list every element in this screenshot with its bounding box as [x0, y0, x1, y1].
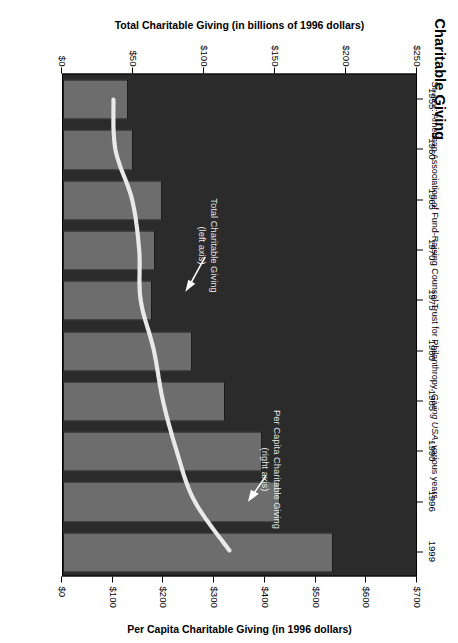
- right-tick: [213, 576, 214, 582]
- right-tick: [416, 576, 417, 582]
- category-tick: [417, 400, 423, 401]
- left-tick-label: $50: [128, 30, 139, 66]
- line-series: [63, 74, 416, 575]
- left-tick: [416, 67, 417, 73]
- category-tick: [417, 450, 423, 451]
- category-tick: [417, 551, 423, 552]
- left-tick-label: $250: [412, 30, 423, 66]
- left-tick: [61, 67, 62, 73]
- left-tick: [203, 67, 204, 73]
- category-tick: [417, 98, 423, 99]
- right-tick-label: $300: [209, 586, 220, 607]
- left-tick: [132, 67, 133, 73]
- right-tick-label: $0: [57, 586, 68, 597]
- right-tick-label: $600: [361, 586, 372, 607]
- left-tick-label: $100: [199, 30, 210, 66]
- arrow-head-percap: [248, 489, 259, 501]
- category-tick: [417, 299, 423, 300]
- right-tick-label: $700: [412, 586, 423, 607]
- arrow-head-total: [185, 279, 195, 291]
- per-capita-line: [113, 99, 229, 550]
- category-tick: [417, 350, 423, 351]
- left-tick-label: $200: [341, 30, 352, 66]
- right-tick-label: $400: [259, 586, 270, 607]
- chart-canvas: Charitable Giving Total Charitable Givin…: [0, 0, 458, 643]
- left-tick: [345, 67, 346, 73]
- source-after: , various years.: [430, 440, 440, 501]
- source-before: American Association of Fund-Raising Cou…: [430, 111, 440, 393]
- left-tick-label: $0: [57, 30, 68, 66]
- right-tick: [264, 576, 265, 582]
- source-italic: Giving USA: [430, 393, 440, 440]
- category-tick: [417, 148, 423, 149]
- left-tick: [274, 67, 275, 73]
- annotation-per-capita: Per Capita Charitable Giving (right axis…: [260, 374, 283, 564]
- right-tick-label: $100: [107, 586, 118, 607]
- rotated-chart-wrapper: Charitable Giving Total Charitable Givin…: [0, 0, 458, 643]
- plot-area: Total Charitable Giving (left axis) Per …: [62, 73, 417, 576]
- category-tick: [417, 249, 423, 250]
- source-prefix: Source:: [430, 81, 440, 111]
- right-tick: [112, 576, 113, 582]
- category-label-1999: 1999: [427, 540, 438, 561]
- left-tick-label: $150: [270, 30, 281, 66]
- annotation-percap-line1: Per Capita Charitable Giving: [272, 374, 284, 564]
- right-tick: [162, 576, 163, 582]
- annotation-total-giving: Total Charitable Giving (left axis): [197, 170, 220, 320]
- category-tick: [417, 199, 423, 200]
- annotation-percap-line2: (right axis): [260, 374, 272, 564]
- right-axis-title: Per Capita Charitable Giving (in 1996 do…: [62, 622, 417, 634]
- right-tick: [315, 576, 316, 582]
- left-axis-title: Total Charitable Giving (in billions of …: [62, 18, 417, 30]
- right-tick: [61, 576, 62, 582]
- source-note: Source: American Association of Fund-Rai…: [430, 81, 440, 501]
- category-tick: [417, 501, 423, 502]
- annotation-total-line1: Total Charitable Giving: [209, 170, 221, 320]
- right-tick: [365, 576, 366, 582]
- right-tick-label: $200: [158, 586, 169, 607]
- annotation-total-line2: (left axis): [197, 170, 209, 320]
- right-tick-label: $500: [310, 586, 321, 607]
